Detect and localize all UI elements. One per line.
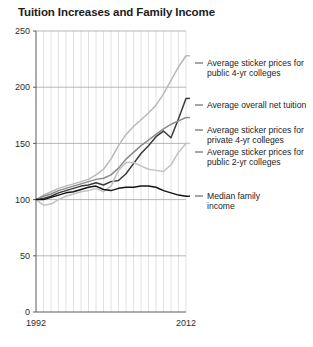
series-label-public4: Average sticker prices for: [207, 58, 304, 68]
y-tick-label: 250: [15, 26, 30, 36]
series-label-income: Median family: [207, 191, 261, 201]
y-tick-label: 200: [15, 82, 30, 92]
series-label-income-line2: income: [207, 201, 235, 211]
y-tick-label: 50: [20, 251, 30, 261]
series-label-public2-line2: public 2-yr colleges: [207, 157, 281, 167]
series-labels-group: Average sticker prices forpublic 4-yr co…: [207, 58, 306, 211]
y-tick-label: 0: [25, 307, 30, 317]
series-label-public2: Average sticker prices for: [207, 147, 304, 157]
line-chart: 05010015020025019922012 Average sticker …: [0, 0, 313, 347]
series-label-private4-line2: private 4-yr colleges: [207, 135, 284, 145]
y-tick-label: 100: [15, 195, 30, 205]
series-label-public4-line2: public 4-yr colleges: [207, 68, 281, 78]
series-label-net: Average overall net tuition: [207, 100, 306, 110]
x-tick-label: 2012: [176, 318, 196, 328]
series-label-private4: Average sticker prices for: [207, 125, 304, 135]
chart-container: Tuition Increases and Family Income 0501…: [0, 0, 313, 347]
y-tick-label: 150: [15, 139, 30, 149]
label-leader-lines: [186, 56, 203, 197]
x-tick-label: 1992: [26, 318, 46, 328]
